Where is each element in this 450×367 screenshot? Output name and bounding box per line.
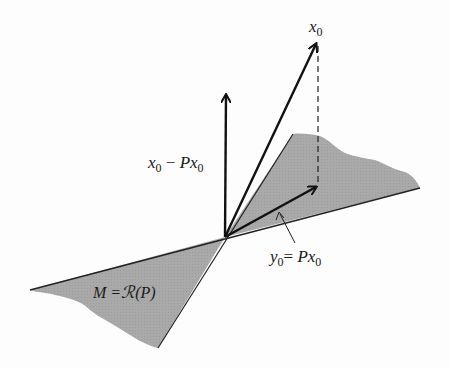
label-subspace: M =ℛ(P) bbox=[92, 283, 156, 302]
projection-diagram: x0 x0 − Px0 y0= Px0 M =ℛ(P) bbox=[0, 0, 450, 367]
label-residual: x0 − Px0 bbox=[147, 153, 204, 175]
label-x0: x0 bbox=[308, 17, 323, 39]
label-projection: y0= Px0 bbox=[268, 247, 321, 269]
vector-residual bbox=[225, 95, 226, 237]
diagram-svg: x0 x0 − Px0 y0= Px0 M =ℛ(P) bbox=[0, 0, 450, 367]
